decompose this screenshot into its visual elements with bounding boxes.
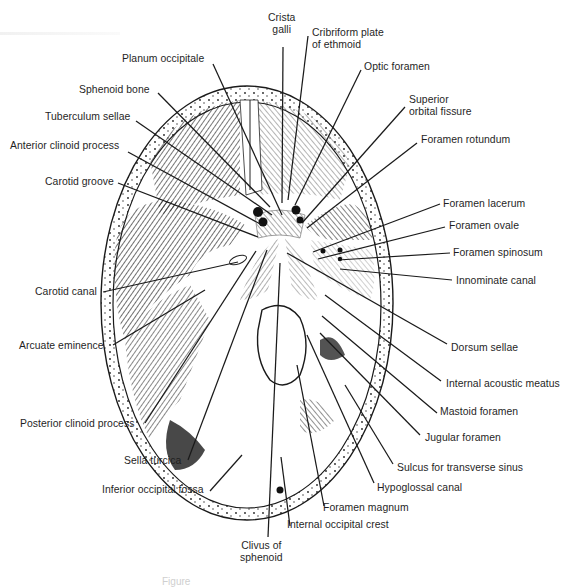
- label-posterior-clinoid-process: Posterior clinoid process: [20, 418, 134, 430]
- label-crista-galli: Crista galli: [268, 12, 295, 36]
- label-clivus-of-sphenoid: Clivus of sphenoid: [240, 540, 283, 564]
- label-innominate-canal: Innominate canal: [456, 275, 536, 287]
- label-inferior-occipital-fossa: Inferior occipital fossa: [102, 484, 204, 496]
- figure-caption: Figure: [162, 576, 190, 587]
- label-planum-occipitale: Planum occipitale: [122, 53, 204, 65]
- label-sphenoid-bone: Sphenoid bone: [79, 84, 150, 96]
- label-foramen-magnum: Foramen magnum: [323, 502, 409, 514]
- label-hypoglossal-canal: Hypoglossal canal: [377, 482, 462, 494]
- label-sella-turcica: Sella turcica: [124, 455, 181, 467]
- label-jugular-foramen: Jugular foramen: [425, 432, 501, 444]
- label-anterior-clinoid-process: Anterior clinoid process: [10, 140, 119, 152]
- label-carotid-groove: Carotid groove: [45, 176, 114, 188]
- label-foramen-spinosum: Foramen spinosum: [453, 247, 543, 259]
- label-arcuate-eminence: Arcuate eminence: [19, 340, 104, 352]
- label-optic-foramen: Optic foramen: [364, 61, 430, 73]
- label-foramen-lacerum: Foramen lacerum: [443, 198, 525, 210]
- label-mastoid-foramen: Mastoid foramen: [440, 406, 518, 418]
- label-internal-occipital-crest: Internal occipital crest: [287, 519, 389, 531]
- label-carotid-canal: Carotid canal: [35, 286, 97, 298]
- label-foramen-rotundum: Foramen rotundum: [421, 134, 510, 146]
- label-tuberculum-sellae: Tuberculum sellae: [45, 111, 130, 123]
- label-superior-orbital-fissure: Superior orbital fissure: [409, 94, 472, 118]
- label-foramen-ovale: Foramen ovale: [449, 220, 519, 232]
- label-sulcus-transverse-sinus: Sulcus for transverse sinus: [397, 462, 523, 474]
- label-dorsum-sellae: Dorsum sellae: [451, 342, 518, 354]
- label-internal-acoustic-meatus: Internal acoustic meatus: [446, 378, 560, 390]
- label-cribriform-plate: Cribriform plate of ethmoid: [312, 27, 384, 51]
